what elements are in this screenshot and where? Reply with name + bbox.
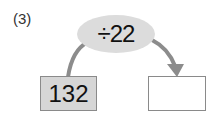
arrow-operation-to-output (152, 40, 175, 66)
operation-oval: ÷22 (77, 15, 155, 53)
input-box: 132 (40, 76, 97, 111)
arrow-input-to-operation (68, 42, 88, 77)
answer-box[interactable] (148, 76, 206, 111)
